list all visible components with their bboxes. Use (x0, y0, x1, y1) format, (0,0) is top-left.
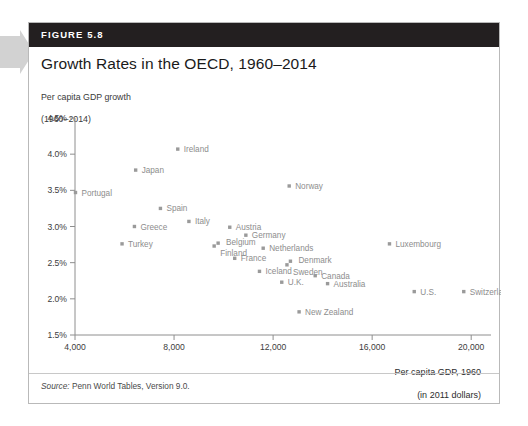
x-tick-label: 8,000 (163, 342, 185, 352)
data-point-marker (216, 241, 219, 244)
data-point-label: Italy (195, 217, 211, 226)
data-point-marker (120, 242, 123, 245)
data-point-label: Australia (334, 280, 366, 289)
y-tick-label: 4.0% (47, 149, 67, 159)
data-point-label: Belgium (226, 238, 256, 247)
y-tick-label: 3.5% (47, 185, 67, 195)
scatter-plot: 1.5%2.0%2.5%3.0%3.5%4.0%4.5%4,0008,00012… (29, 23, 501, 405)
chart-svg: 1.5%2.0%2.5%3.0%3.5%4.0%4.5%4,0008,00012… (29, 23, 501, 405)
x-tick-label: 20,000 (458, 342, 485, 352)
x-tick-label: 12,000 (260, 342, 287, 352)
data-point-marker (388, 242, 391, 245)
data-point-label: Portugal (81, 189, 112, 198)
data-point-label: Ireland (184, 145, 209, 154)
data-point-label: Japan (142, 166, 165, 175)
y-tick-label: 3.0% (47, 222, 67, 232)
source-divider (29, 373, 499, 374)
x-axis-title: Per capita GDP, 1960 (in 2011 dollars) (395, 355, 481, 401)
data-point-marker (289, 260, 292, 263)
data-point-marker (233, 257, 236, 260)
data-point-marker (134, 168, 137, 171)
data-point-marker (413, 290, 416, 293)
data-point-marker (159, 207, 162, 210)
data-point-label: Norway (295, 182, 324, 191)
data-point-label: Turkey (128, 240, 154, 249)
data-point-marker (187, 220, 190, 223)
data-point-marker (244, 233, 247, 236)
data-point-marker (326, 282, 329, 285)
data-point-label: Sweden (293, 268, 323, 277)
data-point-marker (228, 226, 231, 229)
data-point-label: New Zealand (305, 308, 354, 317)
source-prefix: Source: (41, 381, 70, 391)
y-tick-label: 2.0% (47, 294, 67, 304)
data-point-label: Spain (166, 204, 187, 213)
y-tick-label: 1.5% (47, 330, 67, 340)
y-tick-label: 4.5% (47, 113, 67, 123)
figure-card: FIGURE 5.8 Growth Rates in the OECD, 196… (28, 22, 500, 404)
data-point-marker (462, 290, 465, 293)
data-point-label: Iceland (265, 267, 292, 276)
data-point-label: U.K. (288, 278, 304, 287)
data-point-label: France (241, 254, 267, 263)
data-point-marker (287, 184, 290, 187)
data-point-marker (280, 280, 283, 283)
y-tick-label: 2.5% (47, 258, 67, 268)
data-point-label: Denmark (298, 256, 332, 265)
x-tick-label: 16,000 (359, 342, 386, 352)
data-point-marker (212, 244, 215, 247)
data-point-label: Netherlands (269, 244, 313, 253)
data-point-marker (176, 147, 179, 150)
data-point-label: Germany (252, 231, 287, 240)
data-point-marker (258, 270, 261, 273)
data-point-marker (261, 247, 264, 250)
data-point-label: Greece (140, 223, 167, 232)
x-axis-title-line2: (in 2011 dollars) (417, 390, 481, 400)
data-point-marker (313, 274, 316, 277)
data-point-marker (74, 191, 77, 194)
data-point-marker (297, 310, 300, 313)
source-note: Source: Penn World Tables, Version 9.0. (41, 381, 190, 391)
data-point-label: Luxembourg (395, 240, 441, 249)
data-points-group: IrelandJapanNorwayPortugalSpainItalyGree… (74, 145, 501, 317)
x-tick-label: 4,000 (64, 342, 86, 352)
source-text: Penn World Tables, Version 9.0. (70, 381, 190, 391)
data-point-label: Switzerland (470, 288, 501, 297)
data-point-marker (133, 225, 136, 228)
data-point-label: U.S. (420, 288, 436, 297)
x-axis-title-line1: Per capita GDP, 1960 (395, 367, 481, 377)
data-point-marker (285, 263, 288, 266)
